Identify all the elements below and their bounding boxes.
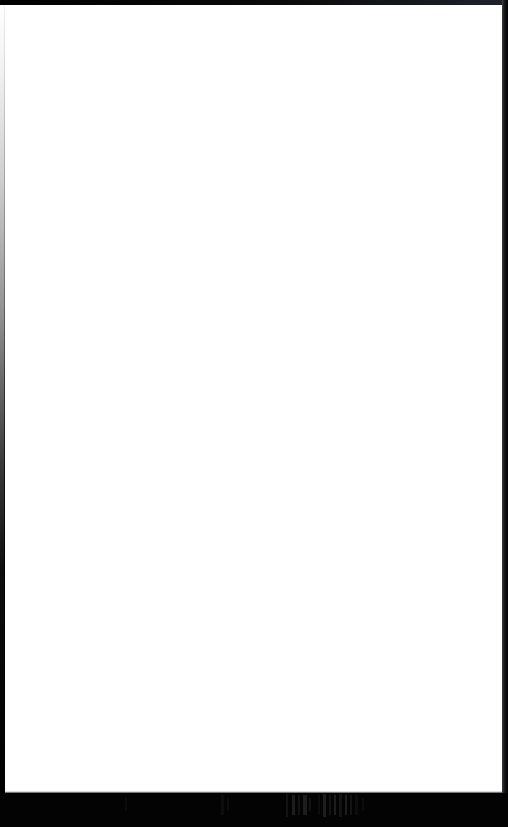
- taskbar-glyph-mark: [303, 795, 307, 815]
- taskbar-glyph-mark: [339, 794, 342, 817]
- taskbar-glyph-mark: [286, 794, 288, 817]
- taskbar-glyph-mark: [323, 794, 326, 817]
- taskbar-glyph-mark: [362, 798, 364, 811]
- right-window-chrome[interactable]: [502, 0, 508, 827]
- taskbar-glyph-mark: [350, 795, 352, 815]
- taskbar-glyph-mark: [125, 798, 127, 811]
- left-window-border: [0, 5, 5, 793]
- taskbar-glyph-mark: [355, 795, 358, 815]
- taskbar-glyph-mark: [334, 795, 336, 815]
- screen: [0, 0, 508, 827]
- bottom-taskbar[interactable]: [0, 793, 508, 827]
- taskbar-glyph-mark: [298, 795, 300, 815]
- taskbar-glyph-group: [0, 793, 508, 827]
- taskbar-glyph-mark: [329, 795, 331, 815]
- taskbar-glyph-mark: [318, 795, 320, 815]
- taskbar-glyph-mark: [345, 795, 347, 815]
- taskbar-glyph-mark: [227, 798, 229, 811]
- taskbar-glyph-mark: [292, 795, 295, 815]
- taskbar-glyph-mark: [221, 795, 224, 815]
- taskbar-glyph-mark: [309, 798, 311, 811]
- document-page[interactable]: [5, 5, 502, 793]
